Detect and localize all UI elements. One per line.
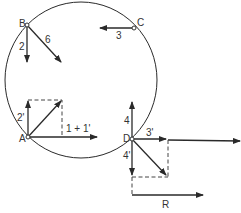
point-a-marker <box>26 135 30 139</box>
label-3p: 3' <box>146 127 154 138</box>
label-b: B <box>19 18 26 29</box>
resultant-a-arrow <box>28 101 61 137</box>
point-d-marker <box>130 137 134 141</box>
label-a: A <box>19 133 26 144</box>
label-2: 2 <box>19 41 25 52</box>
label-1p1: 1 + 1' <box>66 123 91 134</box>
label-4: 4 <box>124 115 130 126</box>
point-c-marker <box>132 26 136 30</box>
label-c: C <box>137 17 144 28</box>
label-d: D <box>123 133 130 144</box>
force-diagram: B C A D 2 6 3 2' 1 + 1' 4 3' 4' R <box>0 0 241 213</box>
resultant-d-arrow <box>132 139 166 175</box>
label-4p: 4' <box>123 150 131 161</box>
long-horizontal-arrow <box>168 140 240 141</box>
label-3: 3 <box>116 30 122 41</box>
label-6: 6 <box>45 34 51 45</box>
label-2p: 2' <box>17 112 25 123</box>
vector-6-arrow <box>27 25 61 62</box>
point-b-vectors <box>27 25 61 62</box>
label-r: R <box>162 199 169 210</box>
